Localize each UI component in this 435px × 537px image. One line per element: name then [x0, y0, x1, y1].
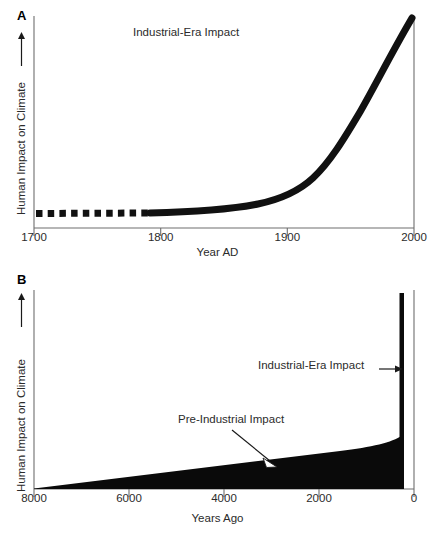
panel-b-x-tick-label: 8000 — [21, 492, 47, 504]
figure-human-impact-on-climate: A Human Impact on Climate — [0, 0, 435, 537]
panel-a-x-tick-label: 1900 — [275, 231, 301, 243]
panel-b-x-tick-label: 6000 — [116, 492, 142, 504]
panel-b-x-tick-label: 4000 — [211, 492, 237, 504]
panel-b-arrow-to-industrial-era-spike — [379, 362, 405, 376]
panel-b-x-tick-label: 2000 — [306, 492, 332, 504]
panel-b-annotation-industrial-era-impact: Industrial-Era Impact — [258, 359, 364, 371]
panel-b-pre-industrial-impact-area — [34, 436, 402, 490]
panel-a-plot — [0, 0, 435, 270]
panel-a-x-tick-label: 1700 — [21, 231, 47, 243]
panel-a-x-ticks — [34, 228, 414, 236]
panel-b-industrial-era-spike — [400, 293, 405, 489]
panel-a: A Human Impact on Climate — [0, 0, 435, 270]
panel-a-x-tick-label: 1800 — [148, 231, 174, 243]
panel-a-impact-curve-series — [150, 18, 412, 213]
panel-b-x-tick-label: 0 — [411, 492, 417, 504]
panel-a-x-axis-title: Year AD — [0, 246, 435, 258]
panel-b: B Human Impact on Climate 800 — [0, 270, 435, 537]
panel-b-annotation-pre-industrial-impact: Pre-Industrial Impact — [178, 413, 284, 425]
panel-a-x-tick-label: 2000 — [401, 231, 427, 243]
panel-a-dashed-baseline-series — [36, 213, 152, 214]
panel-a-annotation-industrial-era-impact: Industrial-Era Impact — [133, 26, 239, 38]
panel-b-x-axis-title: Years Ago — [0, 512, 435, 524]
panel-b-arrow-to-pre-industrial-area — [230, 428, 290, 473]
